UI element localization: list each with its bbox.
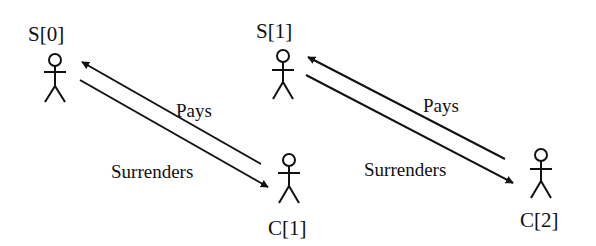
- diagram-canvas: S[0] S[1] C[1] C[2] Pays Surrenders Pays…: [0, 0, 596, 246]
- actor-c2-icon: [530, 149, 552, 198]
- actor-c1-label: C[1]: [268, 218, 307, 239]
- edge-label-pays-1: Pays: [176, 101, 212, 120]
- edge-pays-c1-s0-arrow: [82, 62, 261, 164]
- actor-s0-label: S[0]: [28, 24, 64, 45]
- actor-s0-icon: [44, 54, 66, 102]
- edge-label-surrenders-1: Surrenders: [111, 162, 193, 181]
- actor-c1-icon: [278, 154, 300, 203]
- actor-s1-icon: [272, 50, 294, 99]
- diagram-graphics: [0, 0, 596, 246]
- actor-s1-label: S[1]: [256, 21, 292, 42]
- edge-pays-c2-s1-arrow: [308, 57, 505, 159]
- edge-label-pays-2: Pays: [423, 96, 459, 115]
- actor-c2-label: C[2]: [520, 210, 559, 231]
- edge-label-surrenders-2: Surrenders: [364, 160, 446, 179]
